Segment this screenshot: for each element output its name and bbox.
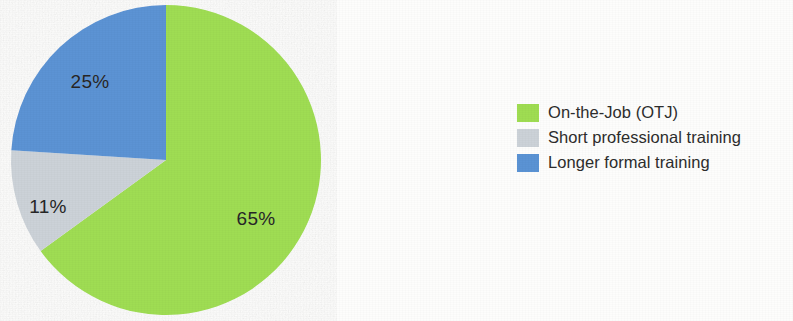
pie-slice-label-on-the-job: 65% — [237, 208, 276, 230]
pie-slice-label-longer-formal-training: 25% — [71, 71, 110, 93]
legend-swatch-longer-formal-training — [517, 154, 539, 172]
pie-slice-label-short-professional-training: 11% — [29, 196, 67, 218]
legend-label-short-professional-training: Short professional training — [548, 128, 741, 147]
legend-label-on-the-job: On-the-Job (OTJ) — [548, 103, 678, 122]
pie-chart-plot-area: 65% 11% 25% — [0, 0, 340, 321]
legend-swatch-on-the-job — [517, 104, 539, 122]
pie-chart-svg — [0, 0, 340, 321]
pie-chart-figure: 65% 11% 25% On-the-Job (OTJ) Short profe… — [0, 0, 793, 321]
chart-legend: On-the-Job (OTJ) Short professional trai… — [517, 100, 787, 175]
legend-item-on-the-job: On-the-Job (OTJ) — [517, 100, 787, 125]
legend-swatch-short-professional-training — [517, 129, 539, 147]
legend-label-longer-formal-training: Longer formal training — [548, 153, 710, 172]
legend-item-longer-formal-training: Longer formal training — [517, 150, 787, 175]
legend-item-short-professional-training: Short professional training — [517, 125, 787, 150]
